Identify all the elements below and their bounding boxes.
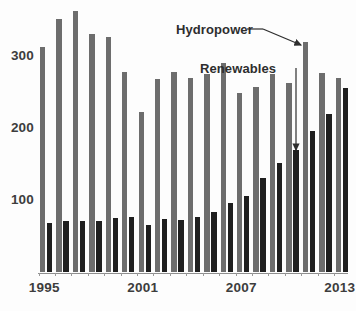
bar-group <box>270 8 286 273</box>
bar-hydropower <box>106 37 111 272</box>
x-tick-mark <box>334 273 335 276</box>
bar-hydropower <box>286 83 291 272</box>
bar-group <box>221 8 237 273</box>
bar-renewables <box>47 223 52 272</box>
bar-renewables <box>211 212 216 272</box>
bar-renewables <box>96 221 101 272</box>
bar-group <box>139 8 155 273</box>
bar-hydropower <box>73 11 78 272</box>
x-tick-mark <box>88 273 89 276</box>
y-axis: 300 200 100 <box>0 0 38 311</box>
bar-group <box>155 8 171 273</box>
bar-group <box>171 8 187 273</box>
bar-renewables <box>113 218 118 272</box>
bar-renewables <box>80 221 85 272</box>
x-tick-mark <box>186 273 187 276</box>
bar-renewables <box>146 225 151 272</box>
bar-hydropower <box>270 74 275 272</box>
x-tick-mark <box>39 273 40 276</box>
bar-hydropower <box>237 93 242 272</box>
bar-renewables <box>195 217 200 272</box>
x-tick-label-2007: 2007 <box>226 281 257 295</box>
bar-hydropower <box>89 34 94 272</box>
x-tick-label-1995: 1995 <box>29 281 60 295</box>
plot-area <box>38 8 350 273</box>
x-tick-mark <box>252 273 253 276</box>
bar-renewables <box>228 203 233 272</box>
x-tick-mark <box>71 273 72 276</box>
bar-hydropower <box>221 63 226 272</box>
bar-group <box>286 8 302 273</box>
bar-renewables <box>178 220 183 272</box>
chart-container: 300 200 100 1995200120072013 Hydropower … <box>0 0 356 311</box>
bar-hydropower <box>319 73 324 272</box>
x-tick-mark <box>121 273 122 276</box>
bar-group <box>319 8 335 273</box>
bar-renewables <box>129 217 134 272</box>
x-tick-mark <box>153 273 154 276</box>
bar-group <box>122 8 138 273</box>
x-tick-mark <box>236 273 237 276</box>
bar-group <box>40 8 56 273</box>
bar-hydropower <box>188 78 193 272</box>
x-tick-mark <box>55 273 56 276</box>
annotation-label-renewables: Renewables <box>200 62 276 75</box>
bar-hydropower <box>303 42 308 272</box>
bar-hydropower <box>155 79 160 272</box>
bar-group <box>73 8 89 273</box>
x-tick-mark <box>219 273 220 276</box>
bar-group <box>106 8 122 273</box>
y-tick-label-300: 300 <box>11 49 34 63</box>
y-tick-label-200: 200 <box>11 121 34 135</box>
x-tick-mark <box>285 273 286 276</box>
x-tick-mark <box>301 273 302 276</box>
bar-group <box>89 8 105 273</box>
x-tick-mark <box>203 273 204 276</box>
bar-group <box>56 8 72 273</box>
x-tick-label-2013: 2013 <box>324 281 355 295</box>
bar-hydropower <box>336 78 341 272</box>
y-tick-label-100: 100 <box>11 193 34 207</box>
bar-renewables <box>63 221 68 272</box>
annotation-label-hydropower: Hydropower <box>176 23 253 36</box>
bar-group <box>188 8 204 273</box>
bar-renewables <box>293 150 298 272</box>
x-tick-mark <box>318 273 319 276</box>
bar-hydropower <box>253 87 258 272</box>
bar-renewables <box>277 163 282 272</box>
bar-hydropower <box>40 47 45 272</box>
bar-renewables <box>343 88 348 272</box>
bar-group <box>253 8 269 273</box>
bar-renewables <box>326 114 331 272</box>
bar-renewables <box>310 131 315 272</box>
x-tick-mark <box>137 273 138 276</box>
bar-hydropower <box>56 19 61 272</box>
bar-renewables <box>260 178 265 272</box>
x-tick-mark <box>268 273 269 276</box>
x-tick-mark <box>170 273 171 276</box>
bar-hydropower <box>139 112 144 272</box>
bar-group <box>237 8 253 273</box>
x-tick-label-2001: 2001 <box>127 281 158 295</box>
bar-hydropower <box>204 74 209 272</box>
x-tick-mark <box>104 273 105 276</box>
bar-group <box>204 8 220 273</box>
bar-renewables <box>162 219 167 272</box>
bar-hydropower <box>171 72 176 272</box>
bar-renewables <box>244 196 249 272</box>
bar-group <box>303 8 319 273</box>
bar-hydropower <box>122 72 127 272</box>
bar-group <box>336 8 352 273</box>
